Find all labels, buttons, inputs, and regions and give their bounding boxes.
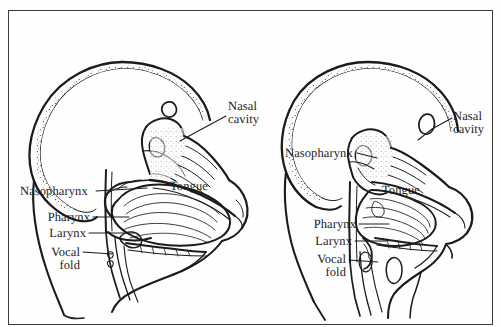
- label-right-nasal-cavity-line2: cavity: [453, 122, 484, 136]
- label-left-vocal-fold: Vocal fold: [24, 246, 80, 273]
- label-right-nasal-cavity-line1: Nasal: [453, 109, 482, 123]
- right-head-section: [282, 62, 472, 320]
- label-left-pharynx: Pharynx: [24, 211, 90, 224]
- label-right-vocal-fold: Vocal fold: [290, 253, 346, 280]
- leader-left-nasopharynx: [96, 188, 147, 191]
- label-left-vocal-fold-line2: fold: [59, 258, 80, 272]
- leader-right-vocal-fold: [349, 260, 378, 262]
- label-right-nasal-cavity: Nasal cavity: [453, 110, 501, 137]
- label-left-nasopharynx: Nasopharynx: [20, 185, 88, 198]
- label-right-nasopharynx: Nasopharynx: [285, 147, 353, 160]
- label-right-pharynx: Pharynx: [290, 218, 356, 231]
- label-right-vocal-fold-line2: fold: [325, 265, 346, 279]
- label-right-vocal-fold-line1: Vocal: [317, 252, 346, 266]
- label-left-larynx: Larynx: [24, 227, 86, 240]
- label-left-vocal-fold-line1: Vocal: [51, 245, 80, 259]
- vocal-tract-drawing: [0, 0, 501, 327]
- label-left-nasal-cavity: Nasal cavity: [228, 100, 288, 127]
- label-left-nasal-cavity-line1: Nasal: [228, 99, 257, 113]
- label-left-tongue: Tongue: [170, 180, 208, 193]
- anatomical-line-art: [0, 0, 501, 327]
- label-right-larynx: Larynx: [290, 235, 352, 248]
- figure-root: Nasal cavity Nasopharynx Tongue Pharynx …: [0, 0, 501, 327]
- label-left-nasal-cavity-line2: cavity: [228, 112, 259, 126]
- label-right-tongue: Tongue: [382, 184, 420, 197]
